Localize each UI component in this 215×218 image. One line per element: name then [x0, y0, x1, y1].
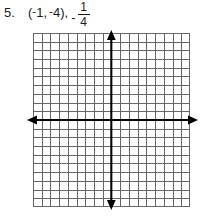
x-axis-right-arrowhead: [188, 116, 198, 125]
slope-fraction: - 1 4: [71, 5, 89, 32]
y-coordinate-value: 4: [53, 5, 60, 21]
x-axis-left-arrowhead: [27, 116, 37, 125]
problem-expression: ( - 1 , - 4 ) , - 1 4: [28, 5, 90, 32]
axes: [25, 29, 198, 211]
fraction-stack: 1 4: [78, 1, 90, 28]
problem-number: 5.: [4, 5, 26, 21]
after-point-comma: ,: [65, 5, 69, 21]
y-axis-up-arrowhead: [107, 30, 116, 40]
fraction-numerator: 1: [78, 1, 89, 14]
y-negative-sign: -: [49, 3, 53, 19]
x-negative-sign: -: [32, 3, 36, 19]
coordinate-plane[interactable]: [33, 33, 190, 207]
problem-header: 5. ( - 1 , - 4 ) , - 1 4: [0, 0, 215, 32]
y-axis-down-arrowhead: [107, 200, 116, 210]
x-coordinate-value: 1: [36, 5, 43, 21]
x-axis: [27, 116, 198, 125]
fraction-denominator: 4: [78, 15, 89, 28]
